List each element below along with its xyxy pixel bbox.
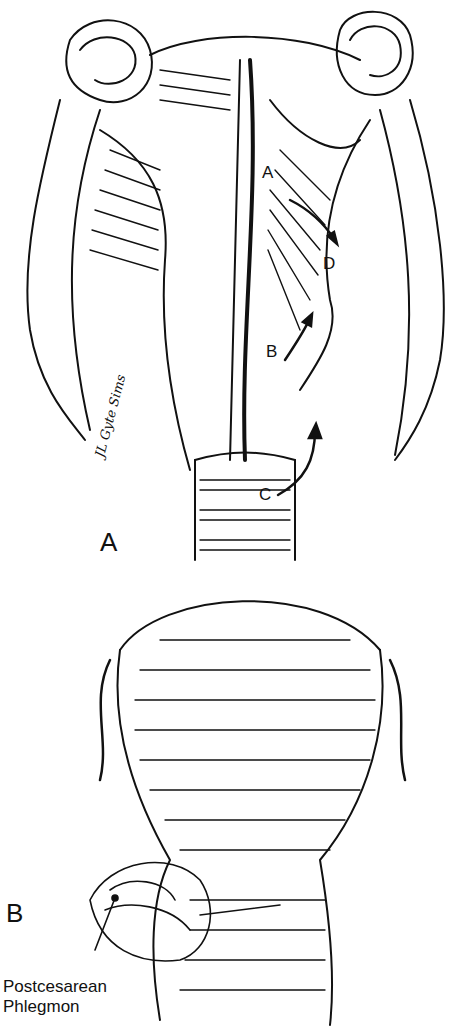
arrow-c — [278, 424, 321, 495]
caption-line-1: Postcesarean — [3, 977, 107, 997]
structure-label-d: D — [323, 254, 335, 274]
left-adnexa-drawing — [27, 20, 152, 440]
uterus-posterior-drawing — [100, 601, 405, 1025]
phlegmon-caption: Postcesarean Phlegmon — [3, 977, 107, 1017]
right-adnexa-drawing — [337, 12, 444, 460]
cervix-drawing — [195, 453, 295, 561]
structure-label-b: B — [266, 342, 277, 362]
structure-label-c: C — [259, 485, 271, 505]
panel-label-b: B — [6, 898, 23, 929]
structure-label-a: A — [262, 163, 273, 183]
caption-line-2: Phlegmon — [3, 997, 107, 1017]
illustration — [0, 0, 460, 1031]
panel-label-a: A — [100, 527, 117, 558]
arrow-b — [285, 314, 312, 360]
phlegmon-drawing — [90, 863, 280, 961]
